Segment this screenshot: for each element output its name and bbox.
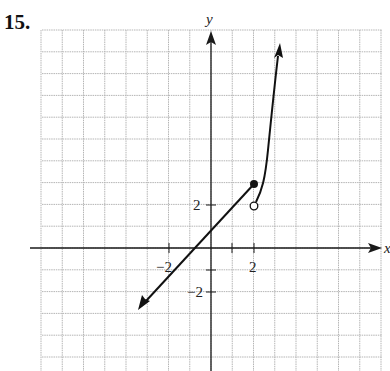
y-tick-label-neg2: −2	[187, 284, 203, 300]
axes	[30, 31, 382, 371]
graph: x y −2 2 2 −2	[0, 0, 390, 371]
y-axis-label: y	[204, 11, 213, 27]
x-axis-label: x	[383, 240, 390, 256]
open-circle	[250, 202, 258, 210]
x-tick-label-pos2: 2	[249, 259, 257, 275]
y-tick-label-pos2: 2	[193, 197, 201, 213]
x-tick-label-neg2: −2	[156, 259, 172, 275]
closed-dot	[250, 180, 258, 188]
curve-piece-arrow-icon	[274, 43, 283, 58]
